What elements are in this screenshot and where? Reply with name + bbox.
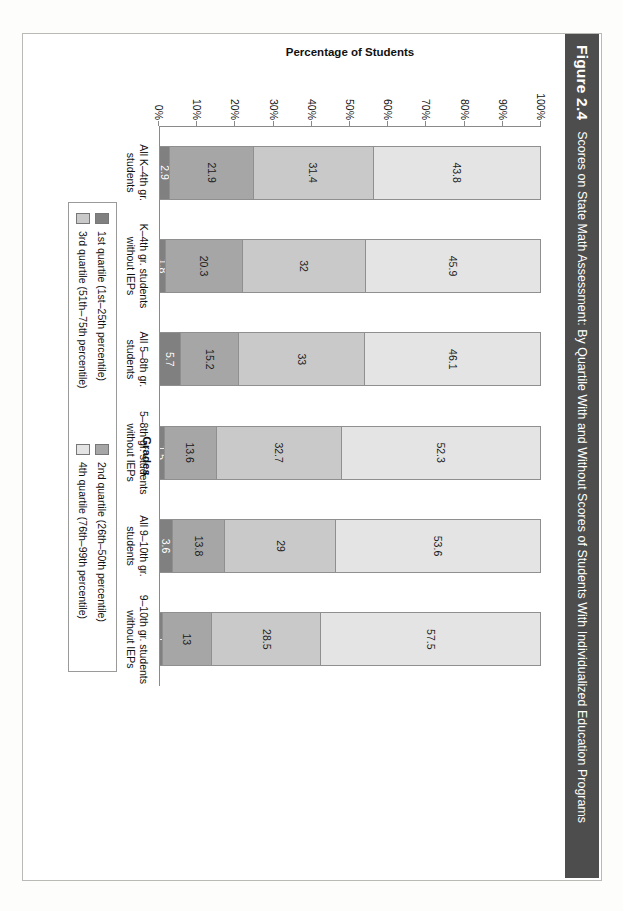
- bar-segment[interactable]: 32: [243, 239, 365, 293]
- bar-segment[interactable]: 45.9: [366, 239, 541, 293]
- bar-value-label: 32.7: [273, 442, 284, 462]
- y-tick-label: 50%: [344, 99, 356, 126]
- bar-series-container: 2.921.931.443.8All K–4th gr.students1.82…: [159, 126, 541, 686]
- y-tick-label: 60%: [382, 99, 394, 126]
- bar-value-label: 31.4: [308, 162, 319, 182]
- figure-number: Figure 2.4: [573, 45, 591, 120]
- bar-segment[interactable]: 1.8: [159, 239, 166, 293]
- bar-segment[interactable]: 13.6: [165, 426, 217, 480]
- bar-value-label: 13.6: [185, 442, 196, 462]
- y-tick-label: 20%: [229, 99, 241, 126]
- figure-canvas: Figure 2.4 Scores on State Math Assessme…: [23, 34, 599, 878]
- y-tick-label: 0%: [153, 105, 165, 126]
- category-label-line: without IEPs: [124, 411, 137, 494]
- legend-label: 1st quartile (1st–25th percentile): [96, 231, 108, 381]
- bar-segment[interactable]: 5.7: [159, 332, 181, 386]
- y-tick-label: 40%: [306, 99, 318, 126]
- bar-segment[interactable]: 57.5: [321, 612, 541, 666]
- bar-value-label: 52.3: [436, 442, 447, 462]
- bar-segment[interactable]: 46.1: [365, 332, 541, 386]
- category-label-line: All 9–10th gr.: [137, 515, 150, 576]
- bar-segment[interactable]: 53.6: [336, 519, 541, 573]
- bar-group[interactable]: 3.613.82953.6All 9–10th gr.students: [159, 519, 541, 573]
- bar-value-label: 33: [296, 353, 307, 365]
- figure-title-bar: Figure 2.4 Scores on State Math Assessme…: [565, 34, 599, 878]
- bar-value-label: 32: [299, 260, 310, 272]
- bar-value-label: 13: [182, 633, 193, 645]
- chart-legend: 1st quartile (1st–25th percentile)2nd qu…: [68, 202, 117, 672]
- category-label: All 9–10th gr.students: [124, 515, 150, 576]
- legend-swatch: [76, 213, 90, 224]
- bar-value-label: 57.5: [425, 629, 436, 649]
- bar-value-label: 21.9: [206, 162, 217, 182]
- y-tick-label: 80%: [459, 99, 471, 126]
- bar-segment[interactable]: 2.9: [159, 146, 170, 200]
- bar-value-label: 43.8: [452, 162, 463, 182]
- category-label-line: students: [124, 144, 137, 201]
- y-tick-label: 100%: [535, 93, 547, 126]
- category-label: 9–10th gr. studentswithout IEPs: [124, 595, 150, 684]
- y-tick-label: 10%: [191, 99, 203, 126]
- bar-value-label: 1.8: [159, 259, 166, 274]
- bar-value-label: 5.7: [165, 352, 176, 367]
- plot-area: Percentage of Students 100%90%80%70%60%5…: [159, 126, 541, 686]
- category-label: K–4th gr. studentswithout IEPs: [124, 224, 150, 309]
- legend-item[interactable]: 3rd quartile (51th–75th percentile): [76, 213, 90, 430]
- bar-value-label: 46.1: [447, 349, 458, 369]
- bar-group[interactable]: 5.715.23346.1All 5–8th gr.students: [159, 332, 541, 386]
- bar-segment[interactable]: 21.9: [170, 146, 254, 200]
- category-label-line: students: [124, 332, 137, 387]
- category-label-line: without IEPs: [124, 595, 137, 684]
- category-label-line: students: [124, 515, 137, 576]
- bar-value-label: 15.2: [204, 349, 215, 369]
- y-tick-label: 30%: [268, 99, 280, 126]
- bar-segment[interactable]: 29: [225, 519, 336, 573]
- bar-group[interactable]: 1.820.33245.9K–4th gr. studentswithout I…: [159, 239, 541, 293]
- bar-value-label: 53.6: [433, 536, 444, 556]
- bar-value-label: 13.8: [193, 536, 204, 556]
- category-label: All K–4th gr.students: [124, 144, 150, 201]
- bar-segment[interactable]: 33: [239, 332, 365, 386]
- legend-item[interactable]: 1st quartile (1st–25th percentile): [95, 213, 109, 430]
- y-axis-title: Percentage of Students: [286, 46, 414, 58]
- bar-value-label: 28.5: [261, 629, 272, 649]
- category-label-line: All 5–8th gr.: [137, 332, 150, 387]
- category-label-line: without IEPs: [124, 224, 137, 309]
- legend-label: 3rd quartile (51th–75th percentile): [77, 231, 89, 389]
- legend-item[interactable]: 4th quartile (76th–99th percentile): [76, 444, 90, 661]
- bar-segment[interactable]: 15.2: [181, 332, 239, 386]
- bar-segment[interactable]: 13: [163, 612, 213, 666]
- bar-segment[interactable]: 13.8: [173, 519, 226, 573]
- bar-segment[interactable]: 32.7: [217, 426, 342, 480]
- category-label: All 5–8th gr.students: [124, 332, 150, 387]
- y-tick-label: 90%: [497, 99, 509, 126]
- bar-segment[interactable]: 3.6: [159, 519, 173, 573]
- category-label-line: 9–10th gr. students: [137, 595, 150, 684]
- legend-swatch: [95, 444, 109, 455]
- legend-label: 2nd quartile (26th–50th percentile): [96, 462, 108, 622]
- bar-group[interactable]: 1.513.632.752.35–8th gr. studentswithout…: [159, 426, 541, 480]
- legend-swatch: [95, 213, 109, 224]
- bar-value-label: 20.3: [199, 256, 210, 276]
- figure-title: Scores on State Math Assessment: By Quar…: [575, 131, 589, 823]
- bar-value-label: 2.9: [159, 165, 170, 180]
- x-axis-title: Grades: [141, 436, 153, 476]
- bar-group[interactable]: 2.921.931.443.8All K–4th gr.students: [159, 146, 541, 200]
- legend-swatch: [76, 444, 90, 455]
- bar-segment[interactable]: 20.3: [166, 239, 244, 293]
- bar-segment[interactable]: 31.4: [254, 146, 374, 200]
- bar-value-label: 3.6: [161, 539, 172, 554]
- bar-group[interactable]: 11328.557.59–10th gr. studentswithout IE…: [159, 612, 541, 666]
- bar-value-label: 29: [275, 540, 286, 552]
- category-label-line: All K–4th gr.: [137, 144, 150, 201]
- rotated-figure-viewport: Figure 2.4 Scores on State Math Assessme…: [23, 34, 599, 878]
- y-tick-label: 70%: [420, 99, 432, 126]
- bar-segment[interactable]: 43.8: [374, 146, 541, 200]
- page-sheet: Figure 2.4 Scores on State Math Assessme…: [0, 0, 623, 911]
- bar-segment[interactable]: 52.3: [342, 426, 542, 480]
- legend-label: 4th quartile (76th–99th percentile): [77, 462, 89, 619]
- bar-value-label: 45.9: [448, 256, 459, 276]
- category-label-line: K–4th gr. students: [137, 224, 150, 309]
- legend-item[interactable]: 2nd quartile (26th–50th percentile): [95, 444, 109, 661]
- bar-segment[interactable]: 28.5: [212, 612, 321, 666]
